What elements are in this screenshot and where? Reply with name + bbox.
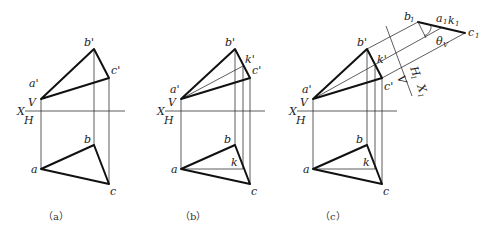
panel-c: X V H a' b' k' c' b k a c b 1 a 1 k 1 c … bbox=[288, 10, 479, 222]
axis-v-label: V bbox=[28, 96, 37, 109]
label-x1: X 1 bbox=[413, 82, 431, 99]
caption-a: （a） bbox=[43, 211, 69, 222]
caption-b: （b） bbox=[180, 211, 206, 222]
front-view-triangle bbox=[181, 49, 250, 99]
svg-text:1: 1 bbox=[455, 20, 459, 28]
label-a-prime: a' bbox=[170, 83, 180, 96]
svg-text:1: 1 bbox=[410, 16, 414, 24]
label-theta-v: θ V bbox=[436, 35, 449, 49]
panel-a: X V H a' b' c' b a c （a） bbox=[16, 36, 125, 222]
label-b-prime: b' bbox=[225, 36, 235, 49]
label-v-aux: V bbox=[394, 74, 409, 87]
label-c-prime: c' bbox=[384, 80, 393, 93]
svg-text:V: V bbox=[394, 74, 409, 87]
label-a1: a 1 bbox=[436, 12, 447, 26]
label-a-prime: a' bbox=[302, 83, 312, 96]
label-c: c bbox=[383, 185, 389, 198]
svg-text:k: k bbox=[448, 14, 455, 27]
axis-v-label: V bbox=[300, 96, 309, 109]
axis-h-label: H bbox=[23, 114, 34, 127]
label-a: a bbox=[31, 163, 38, 176]
top-view-triangle bbox=[41, 145, 109, 184]
label-k: k bbox=[363, 156, 370, 169]
axis-v-label: V bbox=[168, 96, 177, 109]
svg-text:1: 1 bbox=[443, 18, 447, 26]
axis-h-label: H bbox=[295, 114, 306, 127]
svg-text:1: 1 bbox=[475, 32, 479, 40]
axis-h-label: H bbox=[163, 114, 174, 127]
top-view-triangle bbox=[313, 145, 382, 184]
label-b: b bbox=[224, 133, 231, 146]
label-b1: b 1 bbox=[404, 10, 414, 24]
label-b: b bbox=[84, 133, 91, 146]
svg-text:θ: θ bbox=[436, 35, 443, 48]
label-c1: c 1 bbox=[468, 26, 479, 40]
projection-diagram: X V H a' b' c' b a c （a） X V H a' b' k' … bbox=[0, 0, 485, 238]
label-c: c bbox=[110, 185, 116, 198]
label-a: a bbox=[303, 163, 310, 176]
top-view-triangle bbox=[181, 145, 250, 184]
panel-b: X V H a' b' k' c' b k a c （b） bbox=[156, 36, 265, 222]
label-c: c bbox=[251, 185, 257, 198]
svg-text:a: a bbox=[436, 12, 443, 25]
front-view-triangle bbox=[41, 49, 109, 99]
caption-c: （c） bbox=[320, 211, 346, 222]
label-b: b bbox=[356, 133, 363, 146]
front-view-triangle bbox=[313, 49, 382, 99]
label-k: k bbox=[231, 156, 238, 169]
label-b-prime: b' bbox=[357, 36, 367, 49]
aux-projection-line-c bbox=[382, 33, 465, 78]
label-c-prime: c' bbox=[111, 64, 120, 77]
label-a: a bbox=[171, 163, 178, 176]
label-a-prime: a' bbox=[29, 77, 39, 90]
label-k-prime: k' bbox=[377, 53, 387, 66]
label-b-prime: b' bbox=[84, 36, 94, 49]
label-k1: k 1 bbox=[448, 14, 459, 28]
label-c-prime: c' bbox=[252, 64, 261, 77]
svg-text:c: c bbox=[468, 26, 474, 39]
